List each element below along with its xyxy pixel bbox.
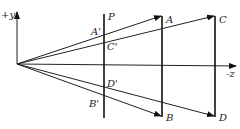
point-b-prime-label: B'	[88, 98, 99, 109]
y-axis-label: +y	[1, 9, 15, 20]
projector-ray-a	[17, 16, 161, 64]
projector-ray-d	[17, 64, 214, 116]
point-d-prime-label: D'	[106, 78, 118, 89]
plane-label: P	[107, 11, 115, 22]
z-axis-label: -z	[226, 68, 235, 79]
projector-ray-c	[17, 16, 214, 64]
point-a-prime-label: A'	[90, 26, 101, 37]
perspective-projection-diagram: +y -z P A C B	[0, 0, 240, 129]
point-c-prime-label: C'	[107, 41, 117, 52]
point-b-label: B	[165, 112, 173, 123]
point-a-label: A	[165, 14, 173, 25]
point-c-label: C	[219, 14, 227, 25]
z-axis	[17, 64, 236, 66]
point-d-label: D	[218, 112, 227, 123]
